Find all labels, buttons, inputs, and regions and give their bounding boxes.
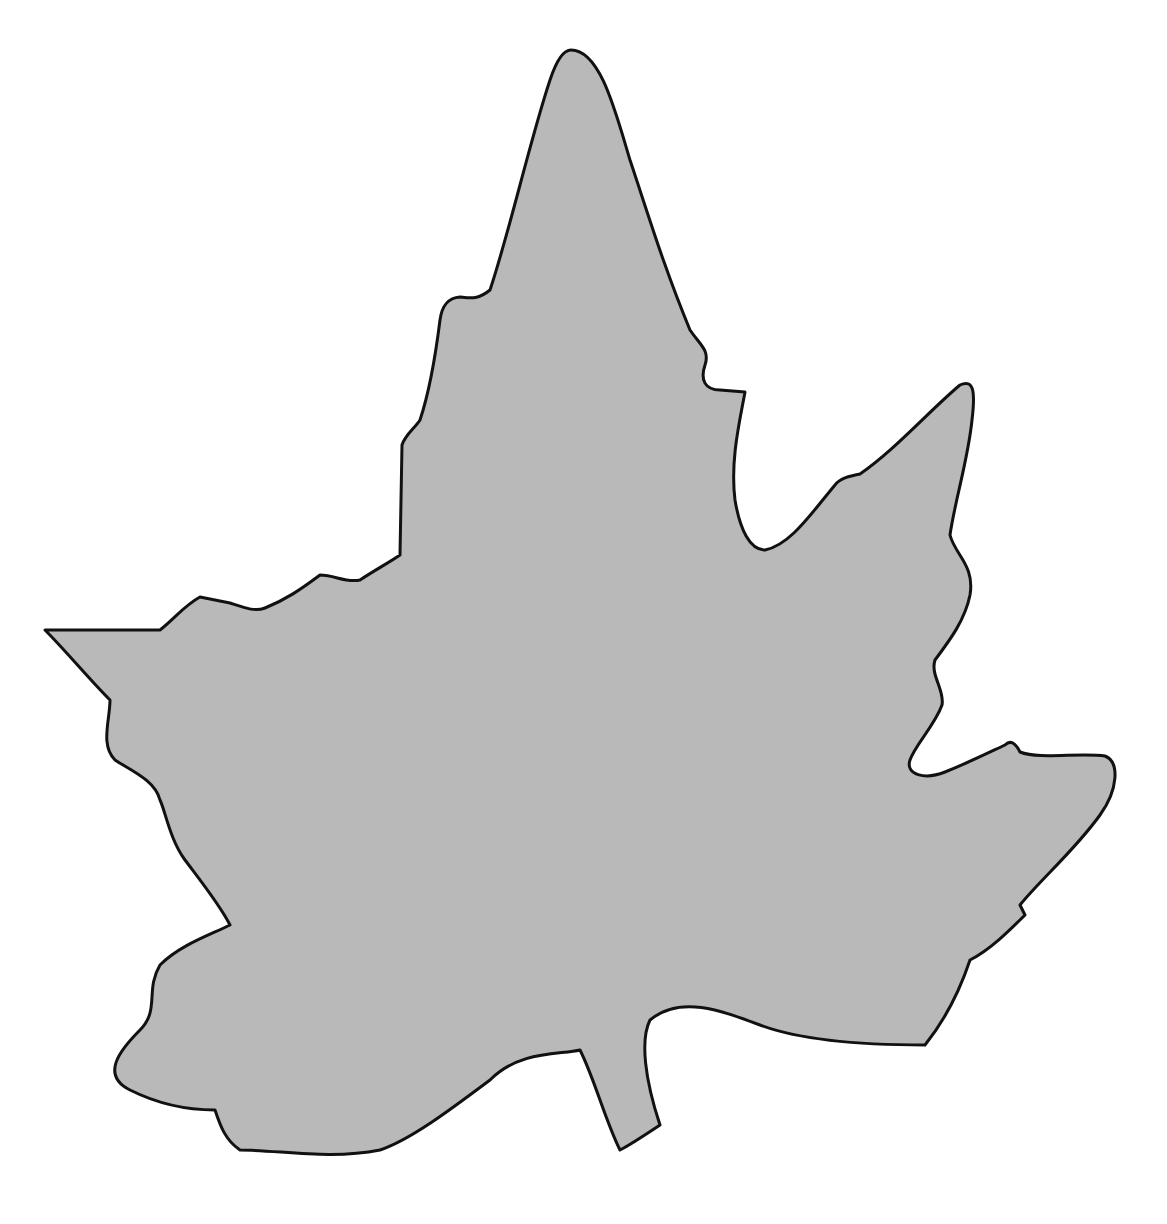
- maple-leaf-icon: [0, 0, 1167, 1224]
- leaf-canvas: [0, 0, 1167, 1224]
- leaf-shape: [45, 50, 1115, 1154]
